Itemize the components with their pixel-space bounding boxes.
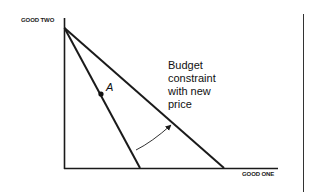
annotation-line: Budget	[168, 59, 216, 72]
point-a-marker	[98, 91, 103, 96]
annotation-line: with new	[168, 85, 216, 98]
rotation-arrow	[136, 125, 171, 150]
budget-diagram	[0, 0, 310, 192]
x-axis-label: GOOD ONE	[242, 171, 274, 177]
annotation-line: constraint	[168, 72, 216, 85]
point-a-label: A	[106, 81, 113, 93]
original-budget-line	[65, 28, 141, 168]
annotation-line: price	[168, 98, 216, 111]
budget-annotation: Budget constraint with new price	[168, 59, 216, 111]
y-axis-label: GOOD TWO	[21, 17, 54, 23]
